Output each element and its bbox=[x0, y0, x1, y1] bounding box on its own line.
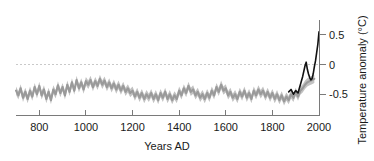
temperature-anomaly-chart: 0.50-0.5 800100012001400160018002000 Yea… bbox=[0, 0, 374, 161]
x-tick-label-1: 1000 bbox=[74, 121, 98, 133]
y-tick-label-0: 0.5 bbox=[329, 29, 344, 41]
x-axis-ticks bbox=[39, 110, 272, 116]
y-axis-title: Temperature anomaly (°C) bbox=[356, 15, 368, 144]
y-tick-label-1: 0 bbox=[329, 59, 335, 71]
chart-canvas: 0.50-0.5 800100012001400160018002000 Yea… bbox=[0, 0, 374, 161]
y-tick-label-2: -0.5 bbox=[329, 88, 348, 100]
x-tick-label-6: 2000 bbox=[307, 121, 331, 133]
x-tick-label-2: 1200 bbox=[120, 121, 144, 133]
x-tick-label-3: 1400 bbox=[167, 121, 191, 133]
x-axis-tick-labels: 800100012001400160018002000 bbox=[30, 121, 331, 133]
x-tick-label-0: 800 bbox=[30, 121, 48, 133]
x-axis-title: Years AD bbox=[144, 140, 190, 152]
x-tick-label-5: 1800 bbox=[260, 121, 284, 133]
y-axis-tick-labels: 0.50-0.5 bbox=[329, 29, 348, 100]
y-axis-ticks bbox=[320, 35, 326, 94]
x-tick-label-4: 1600 bbox=[214, 121, 238, 133]
